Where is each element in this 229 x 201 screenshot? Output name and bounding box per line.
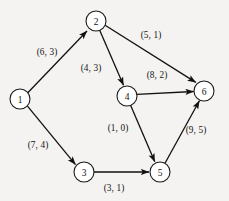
- edge-2-4: (4, 3): [81, 30, 124, 85]
- edge-5-6: (9, 5): [165, 101, 206, 164]
- node-label-6: 6: [202, 87, 207, 97]
- edge-label-2-6: (5, 1): [141, 30, 162, 41]
- edge-line-4-6: [137, 92, 194, 95]
- nodes-layer: 1 2 3 4 5 6: [10, 11, 214, 182]
- edge-label-1-2: (6, 3): [37, 47, 58, 58]
- edge-3-5: (3, 1): [94, 172, 149, 194]
- node-label-5: 5: [158, 168, 163, 178]
- edge-label-4-5: (1, 0): [108, 123, 129, 134]
- node-5[interactable]: 5: [150, 162, 170, 182]
- edge-4-6: (8, 2): [137, 70, 194, 94]
- node-4[interactable]: 4: [117, 86, 137, 106]
- edge-1-2: (6, 3): [28, 31, 87, 93]
- node-2[interactable]: 2: [86, 11, 106, 31]
- edge-line-4-5: [131, 105, 155, 162]
- edges-layer: (6, 3) (7, 4) (5, 1) (4, 3) (8, 2): [28, 25, 207, 194]
- node-6[interactable]: 6: [194, 81, 214, 101]
- graph-figure: (6, 3) (7, 4) (5, 1) (4, 3) (8, 2): [0, 0, 229, 201]
- node-label-3: 3: [82, 168, 87, 178]
- edge-label-4-6: (8, 2): [147, 70, 168, 81]
- edge-label-3-5: (3, 1): [104, 183, 125, 194]
- edge-1-3: (7, 4): [28, 106, 76, 164]
- edge-4-5: (1, 0): [108, 105, 155, 162]
- node-label-4: 4: [125, 92, 130, 102]
- node-3[interactable]: 3: [74, 162, 94, 182]
- edge-label-5-6: (9, 5): [186, 125, 207, 136]
- node-label-2: 2: [94, 17, 99, 27]
- graph-canvas: (6, 3) (7, 4) (5, 1) (4, 3) (8, 2): [0, 0, 229, 201]
- edge-label-2-4: (4, 3): [81, 63, 102, 74]
- edge-label-1-3: (7, 4): [28, 140, 49, 151]
- node-1[interactable]: 1: [10, 89, 30, 109]
- node-label-1: 1: [18, 95, 23, 105]
- edge-line-1-2: [28, 31, 87, 93]
- edge-line-1-3: [28, 106, 76, 164]
- edge-line-2-4: [100, 30, 124, 85]
